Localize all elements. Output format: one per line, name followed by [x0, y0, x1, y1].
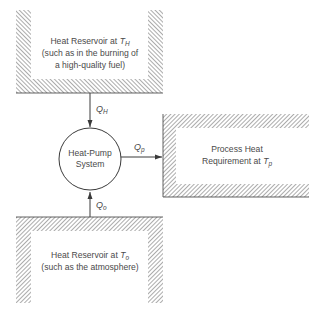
q-o-flow: Qo — [90, 192, 107, 217]
heat-pump-diagram: Heat Reservoir at TH (such as in the bur… — [0, 0, 321, 314]
q-p-label: Qp — [134, 142, 145, 154]
heat-pump-label-line2: System — [76, 159, 105, 169]
q-o-label: Qo — [96, 200, 107, 211]
q-h-label: QH — [96, 104, 108, 115]
hot-reservoir-label-line3: a high-quality fuel) — [55, 60, 125, 70]
cold-reservoir: Heat Reservoir at To (such as the atmosp… — [16, 217, 163, 303]
hot-reservoir-label-line2: (such as in the burning of — [42, 48, 139, 58]
process-heat-label-line2: Requirement at Tp — [202, 156, 272, 168]
cold-reservoir-label-line1: Heat Reservoir at To — [51, 250, 130, 261]
process-heat: Process Heat Requirement at Tp — [163, 114, 309, 197]
process-heat-label-line1: Process Heat — [211, 144, 263, 154]
cold-reservoir-wall — [16, 217, 163, 303]
cold-reservoir-label-line2: (such as the atmosphere) — [41, 262, 139, 272]
hot-reservoir: Heat Reservoir at TH (such as in the bur… — [16, 10, 163, 93]
hot-reservoir-label-line1: Heat Reservoir at TH — [50, 36, 130, 47]
heat-pump-system: Heat-Pump System — [59, 128, 121, 190]
q-h-flow: QH — [90, 93, 108, 127]
heat-pump-label-line1: Heat-Pump — [68, 148, 112, 158]
q-p-flow: Qp — [121, 142, 162, 157]
